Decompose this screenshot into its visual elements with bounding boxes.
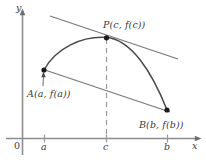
point-label-a: A(a, f(a)): [27, 89, 71, 99]
y-axis-label: y: [16, 3, 21, 13]
function-curve: [44, 37, 167, 110]
tick-label-c: c: [103, 142, 108, 152]
point-a-marker: [41, 67, 46, 72]
tick-label-b: b: [164, 142, 170, 152]
mvt-figure: y x 0 a c b A(a, f(a)) P(c, f(c)) B(b, f…: [0, 0, 206, 164]
point-label-p: P(c, f(c)): [103, 20, 145, 30]
tick-label-a: a: [41, 142, 47, 152]
point-b-marker: [164, 107, 169, 112]
y-axis: [20, 9, 26, 156]
x-axis-label: x: [192, 141, 197, 151]
point-p-marker: [104, 35, 109, 40]
point-label-b: B(b, f(b)): [139, 120, 184, 130]
origin-label: 0: [14, 141, 20, 151]
